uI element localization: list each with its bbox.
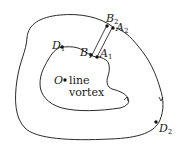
label-D1: D1 [51,39,65,53]
point-A1 [95,55,98,58]
label-O: O [54,74,63,87]
label-A2: A2 [115,21,128,35]
inner-arrow-icon [124,97,128,101]
label-A1: A1 [99,47,112,61]
point-D2 [154,120,157,123]
point-O [63,78,66,81]
label-B1: B1 [79,46,93,60]
vortex-label-line2: vortex [68,86,105,99]
diagram-svg: D1 B1 A1 B2 A2 D2 O line vortex [0,0,185,148]
line-vortex-diagram: D1 B1 A1 B2 A2 D2 O line vortex [0,0,185,148]
label-D2: D2 [158,122,172,136]
point-A2 [111,26,114,29]
